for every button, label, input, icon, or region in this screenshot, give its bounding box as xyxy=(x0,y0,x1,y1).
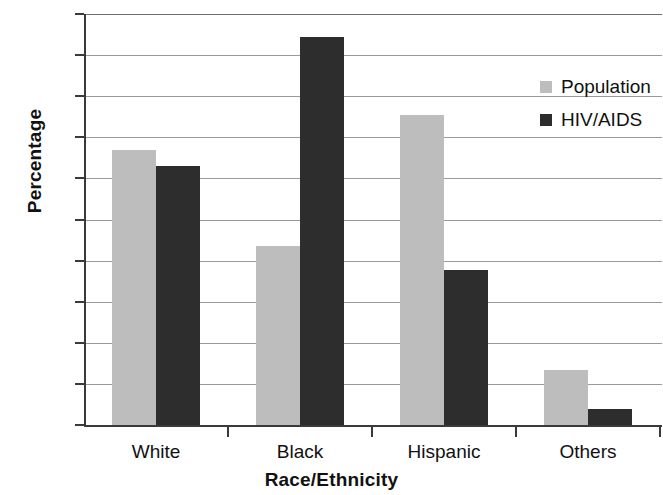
bar-hispanic-hiv-aids xyxy=(444,270,488,425)
legend-swatch-icon xyxy=(540,81,552,93)
y-tick-mark xyxy=(75,383,84,385)
bar-white-population xyxy=(112,150,156,425)
y-tick-mark xyxy=(75,177,84,179)
bar-hispanic-population xyxy=(400,115,444,425)
bar-others-hiv-aids xyxy=(588,409,632,425)
x-tick-mark xyxy=(659,427,661,437)
y-tick-mark xyxy=(75,54,84,56)
x-tick-label-white: White xyxy=(76,441,236,463)
gridline xyxy=(86,55,662,56)
y-tick-mark xyxy=(75,260,84,262)
gridline xyxy=(86,137,662,138)
y-tick-mark xyxy=(75,342,84,344)
y-tick-mark xyxy=(75,136,84,138)
legend-swatch-icon xyxy=(540,114,552,126)
y-tick-mark xyxy=(75,219,84,221)
y-tick-mark xyxy=(75,424,84,426)
bar-black-hiv-aids xyxy=(300,37,344,425)
gridline xyxy=(86,14,662,15)
x-axis-title: Race/Ethnicity xyxy=(0,469,663,491)
x-tick-mark xyxy=(371,427,373,437)
legend-label: HIV/AIDS xyxy=(561,109,642,131)
x-tick-label-hispanic: Hispanic xyxy=(364,441,524,463)
bar-chart: Percentage 50454035302520151050 WhiteBla… xyxy=(0,0,663,495)
bar-black-population xyxy=(256,246,300,425)
y-tick-mark xyxy=(75,95,84,97)
y-tick-mark xyxy=(75,301,84,303)
x-tick-mark xyxy=(227,427,229,437)
bar-others-population xyxy=(544,370,588,425)
x-tick-label-black: Black xyxy=(220,441,380,463)
legend: PopulationHIV/AIDS xyxy=(540,70,651,136)
legend-item-population: Population xyxy=(540,70,651,103)
bar-white-hiv-aids xyxy=(156,166,200,425)
x-tick-mark xyxy=(515,427,517,437)
y-axis-title: Percentage xyxy=(24,81,46,241)
legend-item-hiv-aids: HIV/AIDS xyxy=(540,103,651,136)
y-tick-mark xyxy=(75,13,84,15)
legend-label: Population xyxy=(561,76,651,98)
x-tick-label-others: Others xyxy=(508,441,663,463)
